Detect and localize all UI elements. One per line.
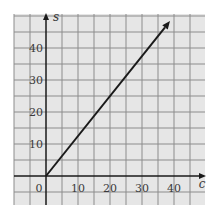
x-tick-label: 10 [71, 182, 85, 195]
x-tick-label: 0 [36, 182, 43, 195]
x-tick-label: 20 [103, 182, 117, 195]
y-axis-label: s [53, 10, 59, 24]
x-axis-label: c [199, 177, 206, 191]
y-tick-label: 30 [29, 74, 43, 87]
y-tick-label: 20 [29, 106, 43, 119]
x-tick-label: 30 [135, 182, 149, 195]
y-tick-label: 40 [29, 42, 43, 55]
line-chart: 01020304010203040cs [0, 0, 215, 217]
x-tick-label: 40 [167, 182, 181, 195]
y-tick-label: 10 [29, 138, 43, 151]
